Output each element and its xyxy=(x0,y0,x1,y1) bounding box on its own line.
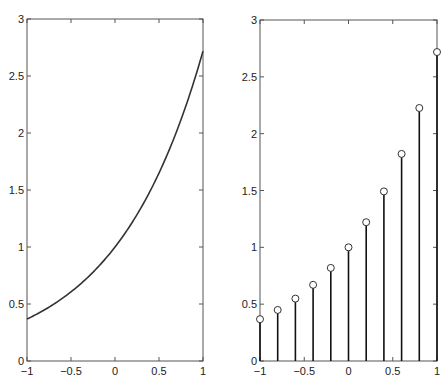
y-tick-label: 1 xyxy=(251,241,257,253)
x-tick-label: 1 xyxy=(434,365,440,377)
y-tick-label: 3 xyxy=(18,13,24,25)
stem-marker xyxy=(292,295,299,302)
x-tick-label: −1 xyxy=(254,365,267,377)
x-tick-label: −1 xyxy=(21,365,34,377)
stem-marker xyxy=(434,49,441,56)
stem-marker xyxy=(380,188,387,195)
stem-marker xyxy=(257,316,264,323)
stem-marker xyxy=(398,150,405,157)
axes-box xyxy=(27,19,203,361)
x-tick-label: −0.5 xyxy=(60,365,82,377)
y-tick-label: 0.5 xyxy=(9,298,24,310)
x-tick-label: 0 xyxy=(112,365,118,377)
y-tick-label: 2.5 xyxy=(9,70,24,82)
y-tick-label: 2 xyxy=(18,127,24,139)
stem-marker xyxy=(274,306,281,313)
stem-marker xyxy=(310,281,317,288)
y-tick-label: 1 xyxy=(18,241,24,253)
x-tick-label: 0 xyxy=(345,365,351,377)
y-tick-label: 3 xyxy=(251,14,257,26)
chart-canvas: 00.511.522.53−1−0.500.5100.511.522.53−1−… xyxy=(0,0,448,384)
y-tick-label: 1.5 xyxy=(9,184,24,196)
x-tick-label: −0.5 xyxy=(293,365,315,377)
y-tick-label: 2.5 xyxy=(242,71,257,83)
x-tick-label: 0.5 xyxy=(385,365,400,377)
stem-marker xyxy=(345,244,352,251)
stem-marker xyxy=(327,264,334,271)
y-tick-label: 0.5 xyxy=(242,298,257,310)
x-tick-label: 0.5 xyxy=(151,365,166,377)
y-tick-label: 1.5 xyxy=(242,185,257,197)
stem-chart-panel: 00.511.522.53−1−0.500.51 xyxy=(242,14,441,377)
exp-curve xyxy=(27,51,203,319)
y-tick-label: 2 xyxy=(251,128,257,140)
x-tick-label: 1 xyxy=(200,365,206,377)
line-chart-panel: 00.511.522.53−1−0.500.51 xyxy=(9,13,206,377)
stem-marker xyxy=(416,104,423,111)
stem-marker xyxy=(363,219,370,226)
